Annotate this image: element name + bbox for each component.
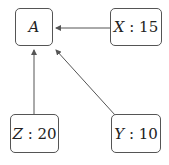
node-y-sep: : <box>124 125 139 143</box>
node-z: Z : 20 <box>10 114 59 153</box>
node-y-name: Y <box>114 125 124 143</box>
node-y: Y : 10 <box>111 114 161 153</box>
node-z-sep: : <box>23 125 38 143</box>
node-z-value: 20 <box>37 125 56 143</box>
node-a: A <box>15 8 53 46</box>
node-z-name: Z <box>12 125 22 143</box>
node-y-value: 10 <box>139 125 158 143</box>
node-a-label: A <box>29 18 40 36</box>
node-x-value: 15 <box>139 18 158 36</box>
node-x: X : 15 <box>110 8 162 46</box>
edge-y-to-a <box>56 50 115 115</box>
node-x-sep: : <box>125 18 140 36</box>
node-x-name: X <box>114 18 125 36</box>
